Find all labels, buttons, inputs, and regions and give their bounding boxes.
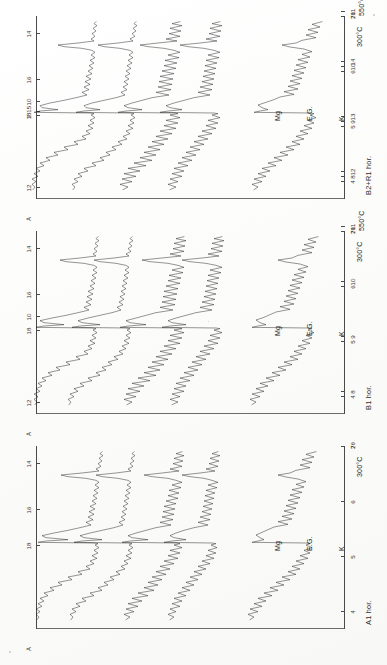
trace-k <box>122 452 184 620</box>
trace-k <box>120 237 186 405</box>
trace-300c <box>162 237 224 405</box>
scanned-page: Å 2θ 18 16 14 12 10 7.15 <box>0 0 387 665</box>
trace-300c <box>160 22 222 190</box>
trace-eg <box>70 452 135 620</box>
panel-b1: Å 2θ 18 16 14 12 10 7.15 <box>6 225 381 440</box>
figure-rotated-container: Å 2θ 18 16 14 12 10 7.15 <box>6 10 381 655</box>
trace-550c <box>252 22 322 190</box>
trace-eg <box>68 237 133 405</box>
trace-group-b1 <box>6 225 381 440</box>
trace-mg <box>32 22 97 190</box>
trace-eg <box>72 22 137 190</box>
trace-group-a1 <box>6 440 381 655</box>
panel-b2r1: Å 2θ 18 16 14 12 10 7.15 <box>6 10 381 225</box>
xrd-figure: Å 2θ 18 16 14 12 10 7.15 <box>6 10 381 655</box>
trace-550c <box>250 237 318 405</box>
panel-a1: Å 2θ 18 16 14 12 10 7.15 <box>6 440 381 655</box>
scan-speck <box>373 14 375 16</box>
trace-550c <box>248 452 316 620</box>
scan-speck <box>93 520 94 521</box>
scan-speck <box>208 321 209 322</box>
trace-300c <box>164 452 220 620</box>
scan-speck <box>9 651 11 653</box>
trace-k <box>118 22 182 190</box>
trace-mg <box>36 452 103 620</box>
trace-group-b2r1 <box>6 10 381 225</box>
trace-mg <box>34 237 99 405</box>
